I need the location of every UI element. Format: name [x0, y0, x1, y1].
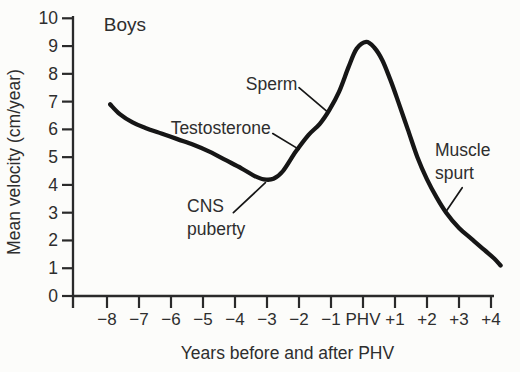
y-tick-label: 3: [48, 203, 58, 223]
annotation-cns-puberty: puberty: [187, 219, 246, 239]
annotation-muscle-spurt: Muscle: [435, 140, 490, 160]
y-axis-title: Mean velocity (cm/year): [4, 69, 24, 255]
x-tick-label: PHV: [346, 310, 382, 329]
figure-growth-velocity-boys: 012345678910−8−7−6−5−4−3−2−1PHV+1+2+3+4 …: [0, 0, 520, 372]
x-tick-label: −1: [321, 310, 340, 329]
y-tick-label: 0: [48, 286, 58, 306]
x-axis-title: Years before and after PHV: [181, 343, 395, 363]
x-tick-label: −3: [257, 310, 276, 329]
y-tick-label: 10: [39, 8, 59, 28]
x-tick-label: −5: [193, 310, 212, 329]
y-tick-label: 6: [48, 119, 58, 139]
y-tick-label: 1: [48, 258, 58, 278]
x-tick-label: −2: [289, 310, 308, 329]
x-tick-label: −6: [161, 310, 180, 329]
y-tick-label: 8: [48, 64, 58, 84]
x-tick-label: −7: [129, 310, 148, 329]
x-tick-label: +1: [385, 310, 404, 329]
x-tick-label: −8: [97, 310, 116, 329]
y-tick-label: 7: [48, 92, 58, 112]
annotation-testosterone: Testosterone: [171, 118, 271, 138]
x-tick-label: +3: [449, 310, 468, 329]
y-tick-label: 5: [48, 147, 58, 167]
axes: [62, 16, 494, 308]
x-tick-label: +4: [481, 310, 500, 329]
group-label-boys: Boys: [104, 14, 146, 35]
y-tick-label: 4: [48, 175, 58, 195]
x-tick-label: −4: [225, 310, 244, 329]
curve-annotations: BoysTestosteroneSpermCNSpubertyMusclespu…: [104, 14, 491, 239]
annotation-leader-cns-puberty: [233, 183, 265, 213]
tick-labels: 012345678910−8−7−6−5−4−3−2−1PHV+1+2+3+4: [39, 8, 501, 329]
annotation-cns-puberty: CNS: [187, 196, 224, 216]
annotation-sperm: Sperm: [246, 74, 298, 94]
annotation-leader-testosterone: [273, 134, 299, 150]
y-tick-label: 2: [48, 230, 58, 250]
y-tick-label: 9: [48, 36, 58, 56]
annotation-leader-sperm: [299, 88, 328, 112]
growth-velocity-chart: 012345678910−8−7−6−5−4−3−2−1PHV+1+2+3+4 …: [0, 0, 520, 372]
annotation-muscle-spurt: spurt: [435, 163, 474, 183]
x-tick-label: +2: [417, 310, 436, 329]
annotation-leader-muscle-spurt: [446, 188, 462, 212]
